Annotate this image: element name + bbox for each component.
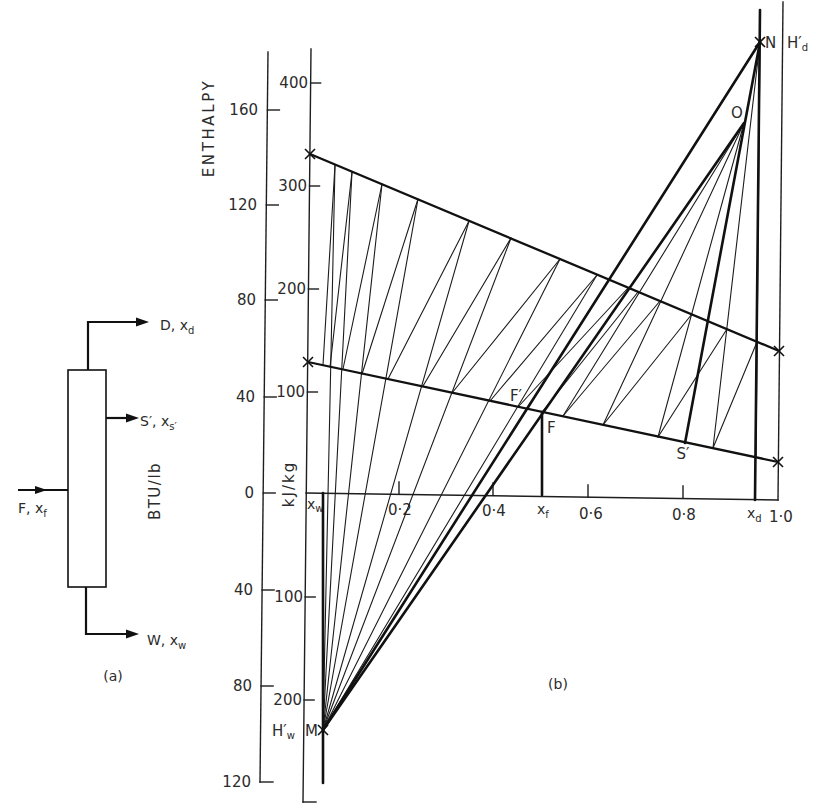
x-f-label: xf: [537, 501, 549, 520]
distillate-pipe: [88, 322, 137, 370]
x-f-label-sub: f: [545, 509, 549, 520]
btu-tick-label: 160: [229, 101, 258, 119]
x-tick-label: 0·2: [388, 501, 412, 519]
H-d-label-main: H′: [787, 34, 802, 52]
feed-label-sub: f: [43, 508, 47, 519]
feed-label: F, xf: [18, 500, 47, 519]
kj-axis: 400 300 200 100 100 200: [273, 49, 320, 802]
x-tick-label: 1·0: [769, 508, 793, 526]
kj-tick-label: 200: [273, 691, 302, 709]
construction-line: [518, 288, 628, 407]
H-w-label: H′w: [272, 722, 295, 741]
kj-tick-label: 100: [276, 383, 305, 401]
btu-axis-line: [260, 52, 268, 782]
distillate-arrow-icon: [136, 318, 149, 327]
btu-tick-label: 0: [244, 484, 254, 502]
point-F-prime-label: F′: [510, 387, 523, 405]
btu-axis: 160 120 80 40 0 40 80 120: [222, 52, 279, 791]
x-f-label-main: x: [537, 501, 545, 517]
construction-line: [343, 184, 382, 369]
kj-tick-label: 300: [278, 177, 307, 195]
btu-tick-label: 80: [233, 677, 252, 695]
side-stream-label: S′, xs′: [140, 413, 177, 432]
kj-axis-line: [303, 49, 311, 802]
x-tick-label: 0·8: [672, 506, 696, 524]
btu-tick-label: 40: [234, 581, 253, 599]
btu-tick-label: 40: [236, 388, 255, 406]
construction-line: [423, 238, 511, 386]
composition-axis: 0·2 0·4 0·6 0·8 1·0 xw xf xd: [306, 2, 793, 526]
construction-line: [452, 259, 560, 393]
bottoms-label-sub: w: [178, 640, 186, 651]
kj-tick-label: 200: [277, 280, 306, 298]
point-markers: [303, 37, 784, 735]
H-d-label: H′d: [787, 34, 808, 53]
panel-a-caption: (a): [103, 668, 123, 684]
side-stream-label-sub: s′: [169, 421, 177, 432]
H-w-label-main: H′: [272, 722, 287, 740]
x-d-label-sub: d: [755, 513, 761, 524]
btu-unit-label: BTU/lb: [146, 462, 164, 520]
figure: D, xd S′, xs′ F, xf W, xw (a) BTU/lb ENT…: [0, 0, 816, 812]
bottoms-pipe: [86, 587, 128, 634]
distillate-label-main: D, x: [160, 317, 188, 333]
distillate-label-sub: d: [188, 325, 194, 336]
point-F-label: F: [547, 419, 556, 437]
construction-line: [563, 301, 660, 416]
kj-tick-label: 400: [279, 74, 308, 92]
feed-label-main: F, x: [18, 500, 43, 516]
feed-arrow-icon: [35, 486, 47, 494]
right-boundary-axis: [778, 2, 783, 500]
x-tick-label: 0·4: [482, 502, 506, 520]
construction-line: [323, 184, 382, 730]
construction-line: [323, 259, 560, 730]
principal-lines: [308, 10, 779, 783]
enthalpy-axis-title: ENTHALPY: [200, 79, 218, 177]
point-N-label: N: [765, 34, 776, 52]
kj-tick-label: 100: [274, 588, 303, 606]
x-w-label-main: x: [307, 496, 315, 512]
H-d-label-sub: d: [802, 42, 808, 53]
point-M-label: M: [305, 722, 318, 740]
distillation-column: [68, 370, 106, 587]
x-tick-label: 0·6: [579, 505, 603, 523]
bottoms-arrow-icon: [126, 630, 139, 639]
x-d-label: xd: [747, 505, 762, 524]
side-stream-arrow-icon: [126, 414, 139, 423]
btu-tick-label: 80: [237, 291, 256, 309]
H-w-label-sub: w: [287, 730, 295, 741]
point-S-prime-label: S′: [677, 445, 691, 463]
side-stream-label-main: S′, x: [140, 413, 169, 429]
btu-tick-label: 120: [228, 196, 257, 214]
panel-a-column-diagram: D, xd S′, xs′ F, xf W, xw (a): [18, 317, 194, 684]
panel-b-caption: (b): [548, 676, 568, 692]
distillate-label: D, xd: [160, 317, 194, 336]
x-w-label: xw: [307, 496, 323, 514]
point-O-label: O: [731, 104, 743, 122]
line-O-M: [323, 123, 744, 730]
x-d-label-main: x: [747, 505, 755, 521]
x-d-vertical: [755, 10, 760, 500]
kj-unit-label: kJ/kg: [280, 461, 298, 507]
bottoms-label: W, xw: [147, 632, 186, 651]
btu-tick-label: 120: [222, 773, 251, 791]
bottoms-label-main: W, x: [147, 632, 178, 648]
construction-line: [323, 221, 469, 730]
construction-line: [323, 165, 335, 730]
construction-line: [323, 238, 511, 730]
